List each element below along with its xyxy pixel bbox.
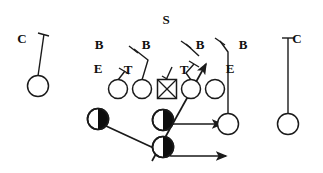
- label-tackle-left: T: [124, 63, 133, 76]
- label-backer-2: B: [142, 38, 151, 51]
- back-left: [88, 109, 109, 130]
- receiver-right-circle: [218, 114, 239, 135]
- cornerback-left-circle: [28, 76, 49, 97]
- lineman-right-tackle: [206, 80, 225, 99]
- lineman-left-tackle: [109, 80, 128, 99]
- offensive-backs: [88, 109, 174, 158]
- label-tackle-right: T: [180, 63, 189, 76]
- back-middle: [153, 110, 174, 131]
- offensive-line: [109, 80, 225, 99]
- cornerback-right-circle: [278, 114, 299, 135]
- assignment-cornerback-right: [282, 38, 294, 114]
- label-end-left: E: [94, 62, 103, 75]
- lineman-left-guard: [133, 80, 152, 99]
- label-backer-4: B: [239, 38, 248, 51]
- center: [158, 80, 177, 99]
- football-play-diagram: C S B B B B E T T E C: [0, 0, 323, 173]
- label-backer-1: B: [95, 38, 104, 51]
- assignment-cornerback-left: [38, 33, 49, 76]
- lineman-right-guard: [182, 80, 201, 99]
- coverage-assignment-lines: [38, 33, 294, 114]
- assignment-backer-right-stem: [215, 38, 228, 113]
- label-safety: S: [162, 13, 169, 26]
- label-cornerback-right: C: [292, 32, 301, 45]
- label-backer-3: B: [196, 38, 205, 51]
- label-cornerback-left: C: [17, 32, 26, 45]
- label-end-right: E: [226, 62, 235, 75]
- back-deep: [153, 137, 174, 158]
